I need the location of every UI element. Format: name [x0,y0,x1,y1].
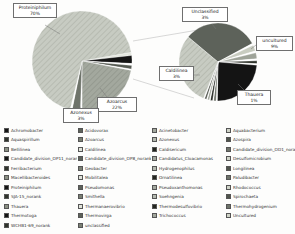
legend-item-proteiniphilum: Proteiniphilum [4,184,77,190]
legend-swatch-icon [226,137,231,142]
legend-swatch-icon [226,166,231,171]
legend-item-caldilinea: Caldilinea [78,146,151,152]
legend-swatch-icon [4,175,9,180]
legend-swatch-icon [226,147,231,152]
pie-slices-layer [32,11,257,111]
legend-label: Candidate_division_OP8_norank [85,156,151,161]
legend-swatch-icon [152,156,157,161]
legend-item-candidatus_cloacamonas: Candidatus_Cloacamonas [152,156,225,162]
legend-swatch-icon [152,185,157,190]
legend-item-azospira: Azospira [226,137,295,143]
callout-percent: 9% [258,44,291,50]
legend-label: Azospira [233,137,251,142]
legend-item-hydrogenophilus: Hydrogenophilus [152,165,225,171]
callout-box-proteiniphilum: Proteiniphilum70% [13,3,57,18]
legend-label: Pseudoxanthomonas [159,185,203,190]
legend-swatch-icon [78,166,83,171]
legend-label: Uncultured [233,213,256,218]
legend-label: Spirochaeta [233,194,258,199]
legend-label: Trichococcus [159,213,186,218]
legend-item-achromobacter: Achromobacter [4,127,77,133]
callout-box-azoarcus: Azoarcus22% [97,97,137,112]
legend-swatch-icon [152,213,157,218]
legend-swatch-icon [4,137,9,142]
legend-label: Aquabacterium [233,128,265,133]
legend-label: Candidate_division_OP11_norank [11,156,77,161]
legend-label: Geobacter [85,166,107,171]
legend-item-wchb1-69_norank: WCHB1-69_norank [4,222,77,228]
legend-swatch-icon [152,175,157,180]
callout-percent: 3% [184,15,226,21]
legend-swatch-icon [78,137,83,142]
callout-percent: 70% [15,11,55,17]
callout-percent: 1% [239,98,269,104]
callout-box-caldilinea: Caldilinea3% [159,66,194,81]
legend-label: Azoarcus [85,137,104,142]
legend-label: Paludibacter [233,175,259,180]
legend-item-bellilinea: Bellilinea [4,146,77,152]
legend-swatch-icon [226,185,231,190]
callout-percent: 3% [161,74,192,80]
legend-item-pseudomonas: Pseudomonas [78,184,151,190]
legend-item-paludibacter: Paludibacter [226,175,295,181]
legend-label: Hydrogenophilus [159,166,194,171]
legend-item-sja-15_norank: SJA-15_norank [4,194,77,200]
callout-box-uncultured: uncultured9% [256,36,293,51]
legend-item-pseudoxanthomonas: Pseudoxanthomonas [152,184,225,190]
legend-swatch-icon [226,204,231,209]
legend-swatch-icon [226,175,231,180]
legend-item-thermodesulfovibrio: Thermodesulfovibrio [152,203,225,209]
figure-canvas: Proteiniphilum70%Azoarcus22%Azonexus3%Un… [0,0,295,234]
legend-item-rhodococcus: Rhodococcus [226,184,295,190]
legend-label: Desulfomicrobium [233,156,271,161]
legend-label: Acinetobacter [159,128,188,133]
legend-label: Pseudomonas [85,185,114,190]
legend-swatch-icon [226,156,231,161]
legend-swatch-icon [4,166,9,171]
legend-item-smithella: Smithella [78,194,151,200]
legend-label: Achromobacter [11,128,43,133]
legend-label: Macellibacteroides [11,175,50,180]
legend-swatch-icon [78,204,83,209]
legend-label: Thermanaerovibrio [85,204,125,209]
legend-label: Acidovorax [85,128,108,133]
legend-swatch-icon [78,175,83,180]
legend-swatch-icon [78,223,83,228]
legend-label: Thermovirga [85,213,112,218]
legend-swatch-icon [78,194,83,199]
legend-label: Caldisericum [159,147,186,152]
legend-label: Candidatus_Cloacamonas [159,156,213,161]
legend-label: Azonexus [159,137,179,142]
legend-item-aquaspirillum: Aquaspirillum [4,137,77,143]
legend-label: SJA-15_norank [11,194,41,199]
legend-item-soehngenia: Soehngenia [152,194,225,200]
legend-swatch-icon [78,128,83,133]
legend-label: Bellilinea [11,147,30,152]
legend-swatch-icon [4,194,9,199]
legend-label: Thermotoga [11,213,37,218]
legend-item-mobilitalea: Mobilitalea [78,175,151,181]
legend-swatch-icon [4,223,9,228]
legend-swatch-icon [78,213,83,218]
legend-swatch-icon [78,185,83,190]
legend-item-candidate_division_od1_norank: Candidate_division_OD1_norank [226,146,295,152]
legend-swatch-icon [152,166,157,171]
legend-swatch-icon [226,213,231,218]
legend-label: Ferribacterium [11,166,42,171]
legend-swatch-icon [78,156,83,161]
legend-item-unclassified: unclassified [78,222,151,228]
legend-label: Thermohydrogenium [233,204,277,209]
legend-swatch-icon [78,147,83,152]
callout-name: Proteiniphilum [15,5,55,11]
legend-item-candidate_division_op8_norank: Candidate_division_OP8_norank [78,156,151,162]
legend-item-candidate_division_op11_norank: Candidate_division_OP11_norank [4,156,77,162]
legend-item-thermotoga: Thermotoga [4,213,77,219]
legend-label: WCHB1-69_norank [11,223,50,228]
legend-swatch-icon [4,128,9,133]
legend-item-ornatilinea: Ornatilinea [152,175,225,181]
legend-item-azonexus: Azonexus [152,137,225,143]
callout-box-unclassified: Unclassified3% [182,7,228,22]
legend-label: Ornatilinea [159,175,182,180]
legend-item-thermanaerovibrio: Thermanaerovibrio [78,203,151,209]
legend-item-azoarcus: Azoarcus [78,137,151,143]
